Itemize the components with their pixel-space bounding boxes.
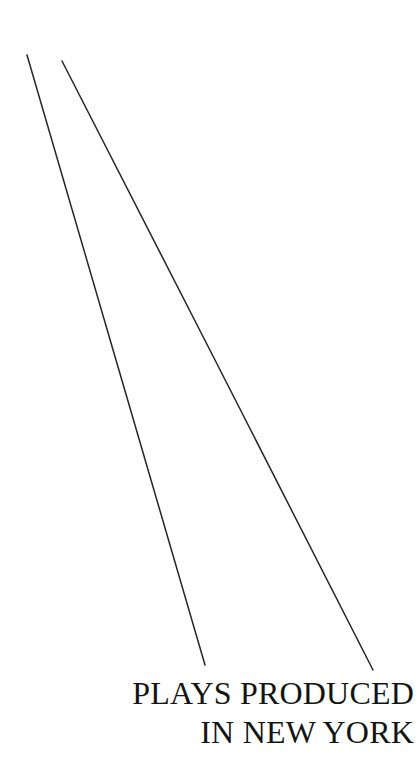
plot-area <box>0 0 417 760</box>
figure-canvas: PLAYS PRODUCED IN NEW YORK <box>0 0 417 760</box>
chart-caption: PLAYS PRODUCED IN NEW YORK <box>10 674 414 752</box>
caption-line-1: PLAYS PRODUCED <box>10 674 414 713</box>
caption-line-2: IN NEW YORK <box>10 713 414 752</box>
plot-background <box>0 0 417 760</box>
